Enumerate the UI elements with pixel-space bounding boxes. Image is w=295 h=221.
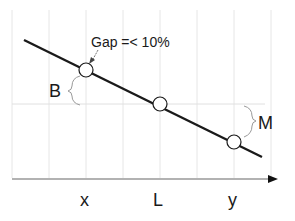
brace-b-icon (68, 76, 80, 105)
axis-label-x: x (80, 190, 89, 210)
brace-b-label: B (49, 81, 61, 101)
x-axis-arrow-icon (268, 175, 278, 183)
brace-m-label: M (258, 113, 273, 133)
gap-arrow-head-icon (89, 57, 95, 64)
axis-label-y: y (228, 190, 237, 210)
point-x (79, 63, 93, 77)
gap-annotation: Gap =< 10% (91, 34, 170, 50)
point-y (227, 135, 241, 149)
point-l (153, 97, 167, 111)
brace-m-icon (244, 106, 256, 137)
axis-label-l: L (153, 190, 163, 210)
diagram-svg: Gap =< 10% B M x L y (0, 0, 295, 221)
diagram-canvas: Gap =< 10% B M x L y (0, 0, 295, 221)
